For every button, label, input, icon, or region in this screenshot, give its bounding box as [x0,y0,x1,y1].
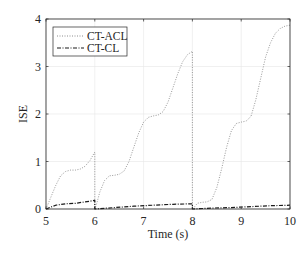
ise-chart: 5678910 01234 Time (s) ISE CT-ACL CT-CL [0,0,308,264]
y-tick-label: 4 [35,12,41,26]
x-tick-label: 9 [238,214,244,228]
x-axis-title: Time (s) [148,227,189,241]
x-tick-label: 6 [92,214,98,228]
y-tick-label: 3 [35,60,41,74]
legend-label-ct-cl: CT-CL [87,42,119,54]
y-axis-title: ISE [16,105,30,123]
y-tick-label: 0 [35,202,41,216]
x-tick-label: 5 [43,214,49,228]
x-tick-label: 10 [284,214,296,228]
y-tick-label: 1 [35,155,41,169]
legend-label-ct-acl: CT-ACL [87,30,127,42]
legend: CT-ACL CT-CL [53,27,127,56]
x-tick-label: 8 [189,214,195,228]
y-tick-label: 2 [35,107,41,121]
x-tick-label: 7 [141,214,147,228]
